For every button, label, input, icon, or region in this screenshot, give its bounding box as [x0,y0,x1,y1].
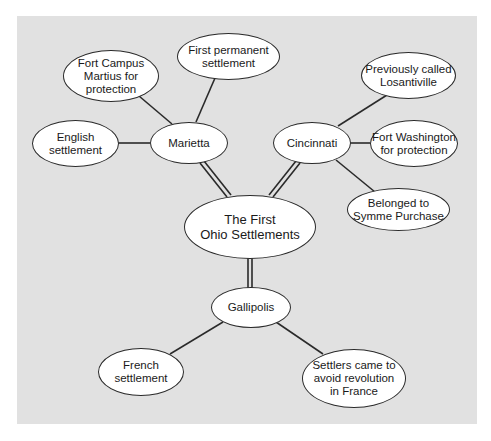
hub-label: Gallipolis [228,301,275,314]
detail-node: Previously called Losantiville [361,52,456,99]
detail-node: Fort Campus Martius for protection [63,50,159,102]
detail-label: First permanent settlement [188,44,269,70]
detail-label: Belonged to Symme Purchase [353,197,444,223]
detail-node: French settlement [98,348,184,396]
detail-label: Previously called Losantiville [365,63,451,89]
detail-label: French settlement [114,359,167,385]
hub-node-marietta: Marietta [150,122,228,164]
detail-label: Fort Campus Martius for protection [78,57,144,96]
detail-node: Belonged to Symme Purchase [347,188,450,231]
hub-label: Marietta [168,137,210,150]
central-topic-label: The First Ohio Settlements [200,212,300,242]
detail-node: Settlers came to avoid revolution in Fra… [302,349,406,408]
detail-node: Fort Washington for protection [370,120,458,167]
central-topic-node: The First Ohio Settlements [184,195,316,259]
hub-node-cincinnati: Cincinnati [273,122,351,164]
detail-label: English settlement [49,131,102,157]
detail-label: Settlers came to avoid revolution in Fra… [312,359,395,398]
detail-label: Fort Washington for protection [372,131,456,157]
hub-label: Cincinnati [287,137,338,150]
hub-node-gallipolis: Gallipolis [211,287,291,328]
detail-node: First permanent settlement [177,33,280,80]
detail-node: English settlement [32,120,119,167]
